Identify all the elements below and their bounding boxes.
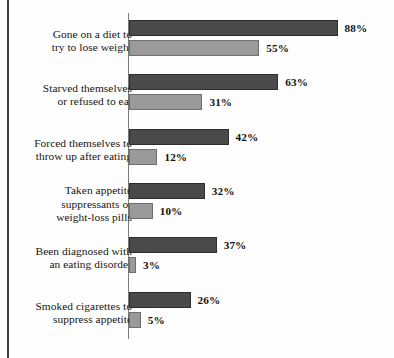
- category-label: Forced themselves tothrow up after eatin…: [8, 137, 132, 163]
- bar-dark-wrapper: 26%: [129, 292, 220, 308]
- bar-dark-wrapper: 88%: [129, 20, 367, 36]
- category-label-line: suppressants or: [8, 198, 132, 211]
- category-label: Gone on a diet totry to lose weight: [8, 28, 132, 54]
- bar-dark: [129, 74, 278, 90]
- chart-row: Smoked cigarettes tosuppress appetite26%…: [0, 285, 394, 339]
- bar-light: [129, 94, 202, 110]
- bar-value-label: 55%: [259, 40, 289, 56]
- bar-light: [129, 257, 136, 273]
- bar-dark: [129, 292, 191, 308]
- bar-dark-wrapper: 32%: [129, 183, 235, 199]
- category-label-line: throw up after eating: [8, 150, 132, 163]
- bar-light-wrapper: 31%: [129, 94, 232, 110]
- bar-light: [129, 312, 141, 328]
- bar-dark: [129, 237, 217, 253]
- category-label-line: Starved themselves: [8, 82, 132, 95]
- category-label-line: Smoked cigarettes to: [8, 300, 132, 313]
- bar-light-wrapper: 3%: [129, 257, 160, 273]
- chart-row: Forced themselves tothrow up after eatin…: [0, 122, 394, 176]
- category-label-line: an eating disorder: [8, 258, 132, 271]
- chart-row: Starved themselvesor refused to eat63%31…: [0, 67, 394, 121]
- bar-value-label: 10%: [153, 203, 183, 219]
- category-label-line: Been diagnosed with: [8, 245, 132, 258]
- bar-light: [129, 203, 153, 219]
- bar-value-label: 32%: [205, 183, 235, 199]
- bar-dark-wrapper: 63%: [129, 74, 308, 90]
- bar-dark: [129, 20, 338, 36]
- bar-light-wrapper: 55%: [129, 40, 289, 56]
- bar-dark-wrapper: 42%: [129, 129, 258, 145]
- category-label: Starved themselvesor refused to eat: [8, 82, 132, 108]
- bar-value-label: 37%: [217, 237, 247, 253]
- bar-light-wrapper: 5%: [129, 312, 165, 328]
- category-label: Taken appetitesuppressants orweight-loss…: [8, 184, 132, 224]
- bar-value-label: 26%: [191, 292, 221, 308]
- category-label-line: suppress appetite: [8, 313, 132, 326]
- category-label-line: Forced themselves to: [8, 137, 132, 150]
- bar-value-label: 63%: [278, 74, 308, 90]
- chart-row: Been diagnosed withan eating disorder37%…: [0, 230, 394, 284]
- bar-value-label: 42%: [229, 129, 259, 145]
- bar-light: [129, 149, 157, 165]
- bar-value-label: 12%: [157, 149, 187, 165]
- bar-value-label: 31%: [202, 94, 232, 110]
- category-label: Smoked cigarettes tosuppress appetite: [8, 300, 132, 326]
- category-label: Been diagnosed withan eating disorder: [8, 245, 132, 271]
- bar-dark: [129, 129, 229, 145]
- bar-chart: Gone on a diet totry to lose weight88%55…: [0, 0, 394, 358]
- category-label-line: weight-loss pills: [8, 211, 132, 224]
- bar-light: [129, 40, 259, 56]
- category-label-line: Taken appetite: [8, 184, 132, 197]
- chart-row: Taken appetitesuppressants orweight-loss…: [0, 176, 394, 230]
- plot-area: Gone on a diet totry to lose weight88%55…: [0, 13, 394, 339]
- chart-row: Gone on a diet totry to lose weight88%55…: [0, 13, 394, 67]
- bar-value-label: 5%: [141, 312, 165, 328]
- category-label-line: or refused to eat: [8, 95, 132, 108]
- bar-dark: [129, 183, 205, 199]
- bar-dark-wrapper: 37%: [129, 237, 246, 253]
- category-label-line: Gone on a diet to: [8, 28, 132, 41]
- bar-value-label: 88%: [338, 20, 368, 36]
- bar-value-label: 3%: [136, 257, 160, 273]
- bar-light-wrapper: 10%: [129, 203, 182, 219]
- category-label-line: try to lose weight: [8, 41, 132, 54]
- bar-light-wrapper: 12%: [129, 149, 187, 165]
